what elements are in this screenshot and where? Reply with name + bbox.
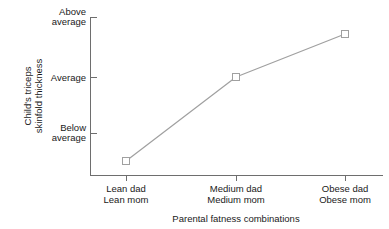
y-axis-title-line2: skinfold thickness: [33, 59, 44, 134]
line-chart: Above average Average Below average Lean…: [0, 0, 389, 229]
y-axis-title-line1: Child's triceps: [22, 66, 33, 125]
data-point-marker-obese: [342, 31, 349, 38]
x-tick-label-obese-line2: Obese mom: [319, 194, 371, 205]
chart-figure: Above average Average Below average Lean…: [0, 0, 389, 229]
data-point-marker-medium: [233, 74, 240, 81]
data-point-marker-lean: [123, 158, 130, 165]
y-tick-label-above-average-line2: average: [52, 16, 86, 27]
x-tick-label-medium-line1: Medium dad: [210, 183, 262, 194]
x-axis-title: Parental fatness combinations: [172, 213, 300, 224]
x-tick-label-lean-line1: Lean dad: [106, 183, 146, 194]
x-tick-label-obese-line1: Obese dad: [322, 183, 368, 194]
data-series-line: [126, 34, 345, 161]
x-tick-label-medium-line2: Medium mom: [207, 194, 265, 205]
x-tick-label-lean-line2: Lean mom: [104, 194, 149, 205]
y-tick-label-below-average-line2: average: [52, 132, 86, 143]
y-tick-label-average: Average: [51, 72, 86, 83]
